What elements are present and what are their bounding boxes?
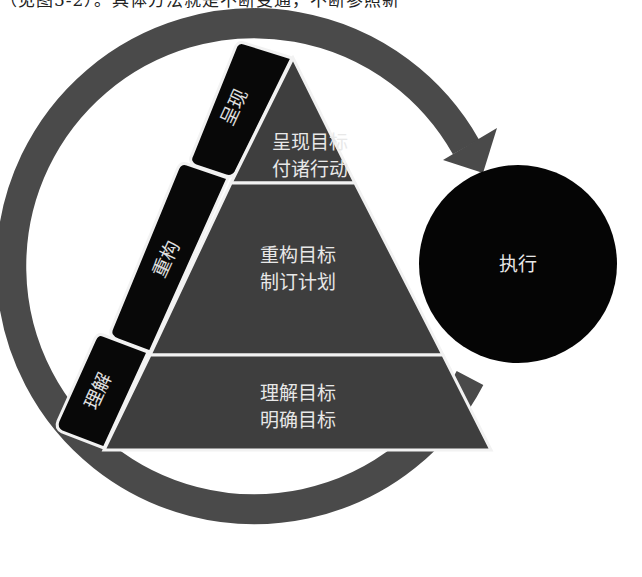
level-top-line1: 呈现目标 xyxy=(272,131,348,153)
level-top-line2: 付诸行动 xyxy=(272,158,348,180)
execute-label: 执行 xyxy=(499,253,537,275)
level-bottom-line2: 明确目标 xyxy=(260,409,336,431)
pyramid-labels: 呈现目标 付诸行动 重构目标 制订计划 理解目标 明确目标 xyxy=(260,131,348,431)
execute-node: 执行 xyxy=(419,165,617,363)
goal-cycle-diagram: 执行 呈现目标 付诸行动 重构目标 制订计划 理解目标 明确目标 呈现 重构 理… xyxy=(0,0,642,577)
level-bottom-line1: 理解目标 xyxy=(260,382,336,404)
level-middle-line2: 制订计划 xyxy=(260,271,336,293)
level-middle-line1: 重构目标 xyxy=(260,244,336,266)
